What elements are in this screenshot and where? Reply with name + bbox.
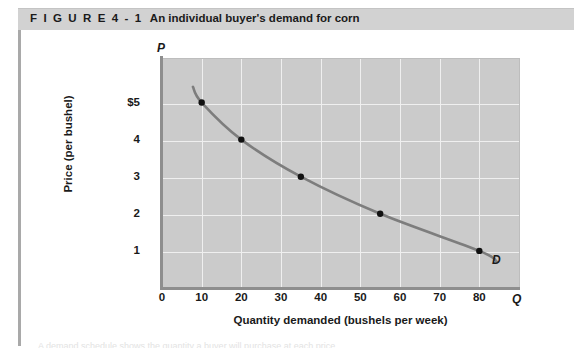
x-tick-label: 10 — [182, 292, 222, 304]
figure-caption-sliver: A demand schedule shows the quantity a b… — [38, 341, 558, 348]
gridline-vertical — [281, 59, 282, 289]
x-axis-line — [160, 287, 520, 290]
x-axis-symbol: Q — [512, 292, 521, 306]
plot-area — [162, 58, 520, 289]
figure-header-bar: F I G U R E 4 - 1An individual buyer's d… — [18, 8, 574, 30]
y-tick-label: 3 — [0, 171, 150, 183]
demand-curve-label: D — [492, 253, 501, 267]
x-tick-label: 0 — [142, 292, 182, 304]
gridline-horizontal — [162, 178, 519, 179]
figure-container: F I G U R E 4 - 1An individual buyer's d… — [0, 0, 582, 348]
gridline-horizontal — [162, 252, 519, 253]
y-axis-title: Price (per bushel) — [62, 64, 74, 224]
gridline-vertical — [400, 59, 401, 289]
gridline-vertical — [479, 59, 480, 289]
x-tick-label: 70 — [420, 292, 460, 304]
figure-number: F I G U R E 4 - 1 — [30, 12, 143, 24]
gridline-horizontal — [162, 215, 519, 216]
figure-title: An individual buyer's demand for corn — [150, 12, 360, 24]
gridline-vertical — [202, 59, 203, 289]
gridline-vertical — [321, 59, 322, 289]
x-tick-label: 20 — [221, 292, 261, 304]
y-axis-line — [160, 56, 163, 290]
x-axis-title: Quantity demanded (bushels per week) — [162, 314, 519, 326]
x-tick-label: 30 — [261, 292, 301, 304]
y-tick-label: $5 — [0, 97, 150, 109]
gridline-horizontal — [162, 141, 519, 142]
gridline-horizontal — [162, 104, 519, 105]
y-tick-label: 1 — [0, 245, 150, 257]
figure-header-text: F I G U R E 4 - 1An individual buyer's d… — [30, 12, 360, 24]
gridline-vertical — [241, 59, 242, 289]
x-tick-label: 60 — [380, 292, 420, 304]
y-axis-symbol: P — [157, 41, 165, 55]
x-tick-label: 50 — [340, 292, 380, 304]
y-tick-label: 2 — [0, 208, 150, 220]
gridline-vertical — [440, 59, 441, 289]
gridline-vertical — [360, 59, 361, 289]
x-tick-label: 80 — [459, 292, 499, 304]
y-tick-label: 4 — [0, 134, 150, 146]
x-tick-label: 40 — [301, 292, 341, 304]
